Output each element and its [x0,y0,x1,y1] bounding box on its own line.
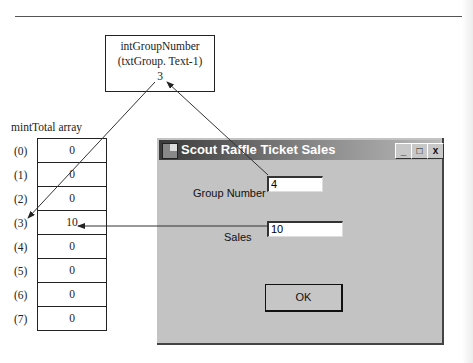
arrow-value-to-index [28,82,155,218]
diagram-arrows [0,0,473,363]
arrow-input-to-variable [167,82,268,175]
